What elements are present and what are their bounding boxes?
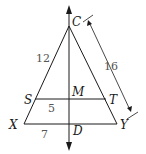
- label-M: M: [71, 85, 85, 99]
- measure-SM: 5: [48, 102, 55, 115]
- dimension-arrow-top-icon: [87, 20, 92, 26]
- side-CX: [24, 26, 69, 124]
- label-X: X: [8, 118, 18, 132]
- arrow-down-icon: [66, 142, 72, 151]
- label-T: T: [109, 93, 118, 107]
- side-CY: [69, 26, 117, 124]
- triangle-diagram: C S M T X D Y 12 16 5 7: [0, 0, 146, 154]
- measure-XD: 7: [41, 128, 48, 141]
- measure-CS: 12: [36, 52, 50, 65]
- dimension-tick-bottom: [127, 112, 138, 119]
- label-C: C: [72, 15, 81, 29]
- arrow-up-icon: [66, 5, 72, 14]
- label-D: D: [72, 124, 83, 138]
- measure-CY: 16: [104, 60, 118, 73]
- label-Y: Y: [120, 118, 129, 132]
- label-S: S: [24, 93, 32, 107]
- dimension-arrow-bottom-icon: [127, 106, 132, 112]
